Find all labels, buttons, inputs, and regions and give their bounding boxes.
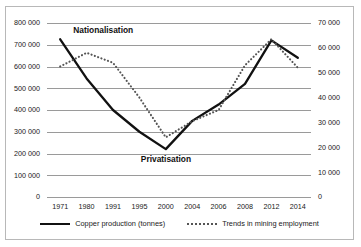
x-axis-tick-label: 2014 [282, 203, 314, 210]
chart-legend: Copper production (tonnes) Trends in min… [6, 220, 353, 227]
legend-label-mining-employment: Trends in mining employment [222, 220, 319, 227]
left-axis-tick-label: 700 000 [6, 41, 40, 48]
legend-item-mining-employment: Trends in mining employment [187, 220, 319, 227]
legend-label-copper-production: Copper production (tonnes) [75, 220, 165, 227]
dotted-line-swatch-icon [187, 223, 217, 225]
annotation-nationalisation: Nationalisation [73, 26, 133, 34]
right-axis-tick-label: 10 000 [318, 169, 340, 176]
right-axis-tick-label: 30 000 [318, 119, 340, 126]
right-axis-tick-label: 70 000 [318, 19, 340, 26]
solid-line-swatch-icon [40, 223, 70, 225]
left-axis-tick-label: 200 000 [6, 150, 40, 157]
right-axis-tick-label: 50 000 [318, 69, 340, 76]
right-axis-tick-label: 20 000 [318, 144, 340, 151]
left-axis-tick-label: 400 000 [6, 106, 40, 113]
left-axis-tick-label: 600 000 [6, 63, 40, 70]
left-axis-tick-label: 100 000 [6, 172, 40, 179]
right-axis-tick-label: 40 000 [318, 94, 340, 101]
chart-frame: 0100 000200 000300 000400 000500 000600 … [5, 6, 354, 240]
left-axis-tick-label: 0 [6, 193, 40, 200]
series-container [47, 23, 311, 197]
left-axis-tick-label: 500 000 [6, 85, 40, 92]
plot-area [47, 23, 311, 197]
right-axis-tick-label: 60 000 [318, 44, 340, 51]
left-axis-tick-label: 800 000 [6, 19, 40, 26]
legend-item-copper-production: Copper production (tonnes) [40, 220, 165, 227]
gridline [47, 197, 311, 198]
left-axis-tick-label: 300 000 [6, 128, 40, 135]
right-axis-tick-label: 0 [318, 193, 322, 200]
annotation-privatisation: Privatisation [141, 155, 191, 163]
